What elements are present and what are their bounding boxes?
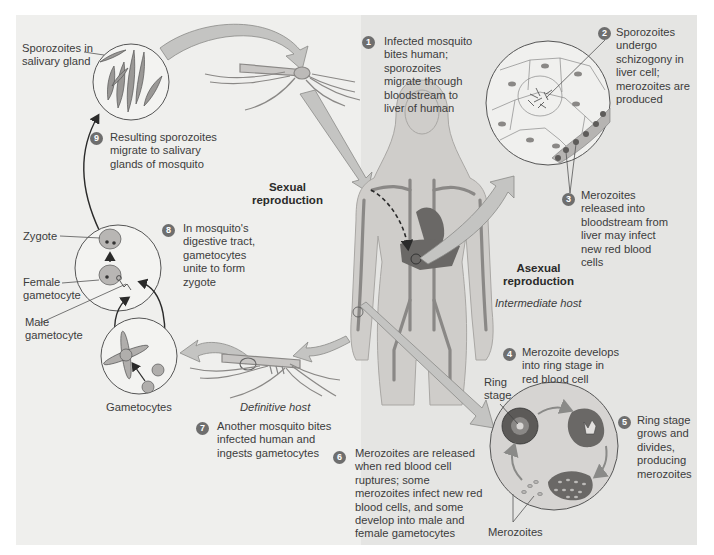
step-badge-5: 5 <box>618 416 631 429</box>
step-badge-6: 6 <box>333 451 346 464</box>
step-badge-7: 7 <box>196 422 209 435</box>
mosquito-top-icon <box>205 64 360 110</box>
step-badge-9: 9 <box>90 132 103 145</box>
definitive-host-label: Definitive host <box>240 401 310 414</box>
step-text-6: Merozoites are released when red blood c… <box>355 447 482 541</box>
step-badge-3: 3 <box>562 193 575 206</box>
label-male-gametocyte: Male gametocyte <box>25 316 83 343</box>
step-badge-4: 4 <box>503 348 516 361</box>
step-badge-8: 8 <box>162 224 175 237</box>
step-text-5: Ring stage grows and divides, producing … <box>637 414 692 481</box>
step-text-8: In mosquito's digestive tract, gametocyt… <box>183 222 255 289</box>
step-text-3: Merozoites released into bloodstream fro… <box>581 189 668 269</box>
step-text-4: Merozoite develops into ring stage in re… <box>522 346 619 386</box>
mosquito-bottom-icon <box>190 354 340 398</box>
asexual-reproduction-title: Asexual reproduction <box>503 262 574 289</box>
step-text-7: Another mosquito bites infected human an… <box>217 420 331 460</box>
label-female-gametocyte: Female gametocyte <box>23 276 81 303</box>
label-gametocytes: Gametocytes <box>106 401 172 414</box>
step-badge-1: 1 <box>362 36 375 49</box>
step-text-2: Sporozoites undergo schizogony in liver … <box>616 26 690 106</box>
step-text-1: Infected mosquito bites human; sporozoit… <box>384 35 472 115</box>
step-text-9: Resulting sporozoites migrate to salivar… <box>110 131 217 171</box>
zygote-circle <box>75 225 161 311</box>
arrow-human-to-mosquito <box>293 336 350 362</box>
label-sporozoites-gland: Sporozoites in salivary gland <box>22 42 93 69</box>
sexual-reproduction-title: Sexual reproduction <box>252 181 323 208</box>
label-ring-stage: Ring stage <box>484 376 511 403</box>
salivary-gland-circle <box>93 44 169 120</box>
liver-cell-circle <box>486 41 610 165</box>
gametocytes-circle <box>101 318 177 394</box>
arrow-mosquito-to-human <box>300 90 372 192</box>
label-zygote: Zygote <box>23 230 57 243</box>
intermediate-host-label: Intermediate host <box>495 297 581 310</box>
arrow-gland-to-mosquito <box>160 24 308 70</box>
step-badge-2: 2 <box>598 27 611 40</box>
label-merozoites: Merozoites <box>488 526 543 539</box>
